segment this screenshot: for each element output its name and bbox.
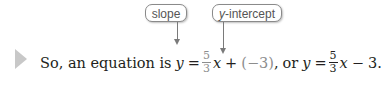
y-intercept-callout: y-intercept [212,4,282,22]
eq1-x: x [213,55,221,71]
play-triangle-icon [15,49,27,69]
eq1-slope-den: 3 [203,63,210,75]
eq2-const: 3 [368,55,377,71]
intercept-arrow-line [223,22,224,50]
eq2-minus: − [352,55,364,71]
slope-callout-label: slope [152,7,181,21]
equation-sentence: So, an equation is y = 5 3 x + (−3), or … [40,50,382,75]
eq1-slope-fraction: 5 3 [202,50,211,75]
eq1-plus: + [225,55,237,71]
eq1-comma: , [274,55,279,71]
y-intercept-label: -intercept [225,7,275,21]
eq2-equals: = [314,55,326,71]
slope-arrow-head-icon [174,39,180,45]
eq2-lhs: y [302,55,310,71]
eq2-period: . [377,55,382,71]
eq2-slope-fraction: 5 3 [329,50,338,75]
slope-callout: slope [145,4,187,22]
eq1-lhs: y [176,55,184,71]
sentence-lead: So, an equation is [40,55,172,71]
or-word: or [283,55,299,71]
eq1-equals: = [188,55,200,71]
eq2-slope-den: 3 [330,63,337,75]
eq1-intercept: (−3) [241,55,274,71]
eq2-x: x [340,55,348,71]
